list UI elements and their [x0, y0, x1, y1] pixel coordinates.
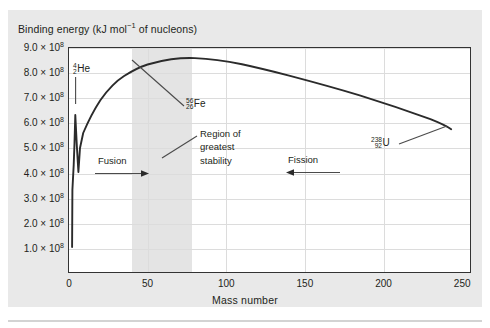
nuclide-helium-4: 42He	[73, 63, 90, 76]
nuclide-iron-56: 5626Fe	[186, 98, 206, 111]
nuclide-u-symbol: U	[383, 137, 390, 148]
x-tick-label-150: 150	[297, 278, 314, 289]
plot-inner: 42He 5626Fe 23892U Region of greatest st…	[69, 48, 470, 272]
binding-energy-curve	[72, 58, 451, 247]
y-tick-label-2: 2.0 × 108	[0, 217, 64, 229]
fusion-arrow-icon	[95, 169, 150, 178]
stability-region-note-line-2: greatest	[200, 140, 241, 153]
nuclide-fe-indices: 5626	[186, 98, 193, 111]
y-tick-label-1: 1.0 × 108	[0, 242, 64, 254]
annotation-helium-4: 42He	[73, 63, 90, 76]
x-tick-label-50: 50	[142, 278, 153, 289]
plot-area: 42He 5626Fe 23892U Region of greatest st…	[68, 47, 471, 273]
fission-arrow-icon	[285, 168, 340, 177]
y-tick-label-6: 6.0 × 108	[0, 116, 64, 128]
x-tick-label-200: 200	[375, 278, 392, 289]
y-tick-label-4: 4.0 × 108	[0, 166, 64, 178]
fission-label: Fission	[288, 154, 318, 165]
figure-root: Binding energy (kJ mol−1 of nucleons) 9.…	[0, 0, 490, 328]
x-tick-label-0: 0	[66, 278, 72, 289]
stability-region-leader-line	[162, 136, 197, 158]
x-tick-label-100: 100	[218, 278, 235, 289]
nuclide-uranium-238: 23892U	[371, 137, 390, 150]
y-axis-caption-tail: of nucleons)	[136, 23, 197, 35]
annotation-iron-56: 5626Fe	[186, 98, 206, 111]
nuclide-fe-symbol: Fe	[194, 98, 206, 109]
binding-energy-curve-layer	[69, 48, 470, 272]
figure-bottom-divider	[8, 320, 482, 322]
y-tick-label-8: 8.0 × 108	[0, 66, 64, 78]
nuclide-u-indices: 23892	[371, 137, 382, 150]
y-tick-label-3: 3.0 × 108	[0, 192, 64, 204]
stability-region-note-line-3: stability	[200, 154, 241, 167]
y-tick-label-5: 5.0 × 108	[0, 141, 64, 153]
y-axis-caption-main: Binding energy (kJ mol	[18, 23, 127, 35]
y-tick-label-7: 7.0 × 108	[0, 91, 64, 103]
uranium-leader-line	[399, 126, 447, 144]
x-axis-caption: Mass number	[0, 294, 490, 306]
iron-leader-line	[132, 60, 184, 106]
fusion-label: Fusion	[98, 155, 127, 166]
y-tick-label-9: 9.0 × 108	[0, 41, 64, 53]
y-axis-caption-exponent: −1	[127, 21, 136, 30]
stability-region-note-line-1: Region of	[200, 127, 241, 140]
annotation-uranium-238: 23892U	[371, 137, 390, 150]
stability-region-note: Region of greatest stability	[200, 127, 241, 167]
nuclide-he-indices: 42	[73, 63, 77, 76]
x-tick-label-250: 250	[454, 278, 471, 289]
y-axis-caption: Binding energy (kJ mol−1 of nucleons)	[18, 21, 197, 35]
nuclide-he-symbol: He	[77, 63, 90, 74]
